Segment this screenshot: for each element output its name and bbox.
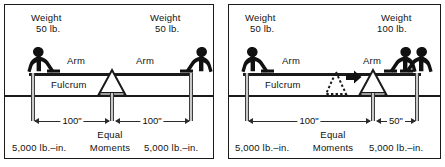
left-moment-value: 5,000 lb.–in. <box>12 142 66 153</box>
right-dimension-label: 100" <box>140 115 163 126</box>
left-arm-label: Arm <box>67 55 85 66</box>
left-arm-label-2: Arm <box>282 55 300 66</box>
center-extension-post-2 <box>371 93 375 121</box>
left-dimension-arrow-end <box>105 118 110 124</box>
panel-equal-arms: Weight 50 lb. Weight 50 lb. Arm Arm Fulc… <box>4 4 214 159</box>
left-extension-post-2 <box>245 73 249 121</box>
right-weight-line2-2: 100 lb. <box>377 23 407 34</box>
right-dimension-label-2: 50" <box>387 115 405 126</box>
right-weight-label: Weight 50 lb. <box>150 12 181 34</box>
right-extension-post-2 <box>415 73 419 121</box>
equal-caption-2: Equal <box>320 129 345 140</box>
right-arm-label: Arm <box>136 55 154 66</box>
left-dimension-arrow-start <box>34 118 39 124</box>
fulcrum-label-2: Fulcrum <box>265 79 301 90</box>
lever-moment-figure: Weight 50 lb. Weight 50 lb. Arm Arm Fulc… <box>0 0 445 167</box>
right-moment-value: 5,000 lb.–in. <box>144 142 198 153</box>
left-weight-label: Weight 50 lb. <box>31 12 62 34</box>
fulcrum-label: Fulcrum <box>51 79 87 90</box>
panel-unequal-arms: Weight 50 lb. Weight 100 lb. Arm Arm Ful… <box>228 4 441 159</box>
left-moment-value-2: 5,000 lb.–in. <box>235 142 289 153</box>
left-dimension-arrow-end-2 <box>366 118 371 124</box>
left-dimension-arrow-start-2 <box>248 118 253 124</box>
rider-figure-right-outer <box>393 45 433 77</box>
ground-line-2 <box>229 95 440 97</box>
left-weight-line2-2: 50 lb. <box>250 23 274 34</box>
left-weight-label-2: Weight 50 lb. <box>245 12 276 34</box>
right-weight-line1: Weight <box>150 12 181 23</box>
right-dimension-arrow-start <box>115 118 120 124</box>
moments-caption: Moments <box>90 142 130 153</box>
left-extension-post <box>31 73 35 121</box>
right-dimension-arrow-end-2 <box>411 118 416 124</box>
center-extension-post <box>110 93 114 121</box>
right-dimension-arrow-end <box>185 118 190 124</box>
ground-line <box>5 95 213 97</box>
right-weight-label-2: Weight 100 lb. <box>377 12 412 34</box>
left-weight-line1: Weight <box>31 12 62 23</box>
rider-figure-left <box>27 45 67 77</box>
left-weight-line1-2: Weight <box>245 12 276 23</box>
right-dimension-arrow-start-2 <box>376 118 381 124</box>
moments-caption-2: Moments <box>313 142 353 153</box>
right-weight-line2: 50 lb. <box>155 23 179 34</box>
right-moment-value-2: 5,000 lb.–in. <box>369 142 423 153</box>
equal-caption: Equal <box>97 129 122 140</box>
right-extension-post <box>189 73 193 121</box>
left-weight-line2: 50 lb. <box>36 23 60 34</box>
left-dimension-label-2: 100" <box>297 115 320 126</box>
rider-figure-left-2 <box>241 45 281 77</box>
rider-figure-right <box>173 45 213 77</box>
left-dimension-label: 100" <box>60 115 83 126</box>
right-weight-line1-2: Weight <box>381 12 412 23</box>
